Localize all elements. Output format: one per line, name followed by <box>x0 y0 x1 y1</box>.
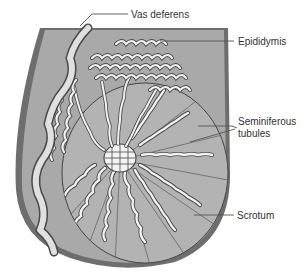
label-epididymis: Epididymis <box>238 36 286 47</box>
label-seminiferous-tubules-line1: Seminiferous <box>238 116 296 127</box>
label-scrotum: Scrotum <box>237 210 274 221</box>
label-vas-deferens: Vas deferens <box>131 9 189 20</box>
label-seminiferous-tubules-line2: tubules <box>238 128 270 139</box>
